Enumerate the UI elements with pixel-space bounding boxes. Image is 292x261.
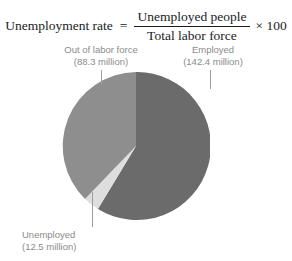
label-out-of-labor-force-name: Out of labor force xyxy=(42,44,160,56)
label-unemployed: Unemployed (12.5 million) xyxy=(22,229,158,253)
label-out-of-labor-force-value: (88.3 million) xyxy=(42,56,160,68)
label-unemployed-name: Unemployed xyxy=(22,229,158,241)
unemployment-rate-figure: Unemployment rate = Unemployed people To… xyxy=(0,0,292,261)
times-one-hundred: × 100 xyxy=(250,18,287,34)
fraction-numerator: Unemployed people xyxy=(134,9,249,27)
formula-fraction: Unemployed people Total labor force xyxy=(134,9,249,43)
leader-line-out-of-labor-force xyxy=(101,70,102,85)
leader-line-employed xyxy=(210,70,211,89)
label-employed-value: (142.4 million) xyxy=(160,56,266,68)
pie-chart xyxy=(62,72,210,220)
equals-sign: = xyxy=(120,18,135,34)
leader-line-unemployed xyxy=(92,192,93,227)
formula-left-hand-side: Unemployment rate xyxy=(5,18,120,34)
fraction-denominator: Total labor force xyxy=(144,27,240,44)
unemployment-rate-formula: Unemployment rate = Unemployed people To… xyxy=(0,9,292,43)
label-out-of-labor-force: Out of labor force (88.3 million) xyxy=(42,44,160,68)
label-employed-name: Employed xyxy=(160,44,266,56)
pie-chart-svg xyxy=(62,72,210,220)
label-unemployed-value: (12.5 million) xyxy=(22,241,158,253)
label-employed: Employed (142.4 million) xyxy=(160,44,266,68)
